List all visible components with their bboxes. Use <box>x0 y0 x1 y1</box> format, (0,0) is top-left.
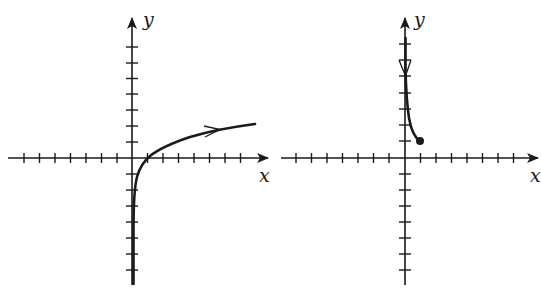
right-curve-endpoint-dot <box>416 137 424 145</box>
right-x-label: x <box>530 164 541 186</box>
left-x-label: x <box>259 164 270 186</box>
right-graph: y x <box>281 8 541 285</box>
left-y-label: y <box>142 8 154 30</box>
figure: y x <box>0 0 541 296</box>
right-y-label: y <box>413 8 425 30</box>
left-curve <box>134 124 256 284</box>
left-graph: y x <box>8 8 270 285</box>
